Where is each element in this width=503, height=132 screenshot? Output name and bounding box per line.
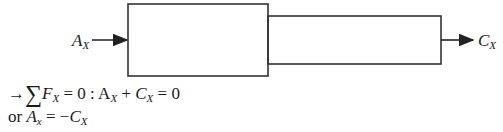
force-label-c: CX <box>478 32 496 51</box>
force-label-a: AX <box>72 32 89 51</box>
equilibrium-equation: →∑FX = 0 : AX + CX = 0 <box>8 82 180 106</box>
result-equation: or Ax = −CX <box>8 108 87 127</box>
large-block <box>128 4 268 76</box>
small-block <box>268 16 441 64</box>
